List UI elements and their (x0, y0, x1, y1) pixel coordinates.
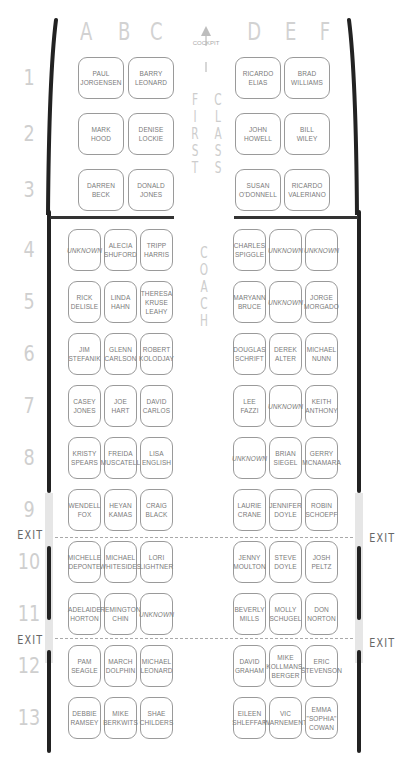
seat-6f[interactable]: MICHAEL NUNN (305, 333, 338, 375)
seat-9e[interactable]: JENNIFER DOYLE (269, 489, 302, 531)
seat-9f[interactable]: ROBIN SCHOEPF (305, 489, 338, 531)
seat-3d[interactable]: SUSAN O'DONNELL (235, 169, 281, 211)
seat-1e[interactable]: BRAD WILLIAMS (284, 57, 330, 99)
column-label-f: F (320, 18, 330, 46)
right-wall-tail (357, 650, 361, 753)
seat-9a[interactable]: WENDELL FOX (68, 489, 101, 531)
seat-12e[interactable]: MIKE KOLLMANS- BERGER (269, 645, 302, 687)
seat-7f[interactable]: KEITH ANTHONY (305, 385, 338, 427)
passenger-name: JOHN HOWELL (244, 125, 272, 143)
seat-2c[interactable]: DENISE LOCKIE (128, 113, 174, 155)
seat-3b[interactable]: DARREN BECK (78, 169, 124, 211)
seat-11a[interactable]: ADELAIDE HORTON (68, 593, 101, 635)
seat-13f[interactable]: EMMA "SOPHIA" COWAN (305, 697, 338, 739)
left-wall-tail (47, 650, 51, 753)
seat-2b[interactable]: MARK HOOD (78, 113, 124, 155)
seat-7b[interactable]: JOE HART (104, 385, 137, 427)
seat-8f[interactable]: GERRY MCNAMARA (305, 437, 338, 479)
passenger-name: LEE FAZZI (240, 397, 258, 415)
row-number-7: 7 (14, 393, 44, 418)
seat-13d[interactable]: EILEEN SHLEFFAR (233, 697, 266, 739)
seat-1d[interactable]: RICARDO ELIAS (235, 57, 281, 99)
seat-9b[interactable]: HEYAN KAMAS (104, 489, 137, 531)
seat-10d[interactable]: JENNY MOULTON (233, 541, 266, 583)
seat-13b[interactable]: MIKE BERKWITS (104, 697, 137, 739)
passenger-name: MIKE BERKWITS (103, 709, 138, 727)
passenger-name: PAUL JORGENSEN (80, 69, 121, 87)
passenger-name: WENDELL FOX (68, 501, 100, 519)
seat-6a[interactable]: JIM STEFANIK (68, 333, 101, 375)
seat-5c[interactable]: THERESA KRUSE LEAHY (140, 281, 173, 323)
seat-7e[interactable]: UNKNOWN (269, 385, 302, 427)
seat-5f[interactable]: JORGE MORGADO (305, 281, 338, 323)
seat-4c[interactable]: TRIPP HARRIS (140, 229, 173, 271)
seat-10c[interactable]: LORI LIGHTNER (140, 541, 173, 583)
passenger-name: JOE HART (112, 397, 130, 415)
seat-6c[interactable]: ROBERT KOLODJAY (140, 333, 173, 375)
passenger-name: LAURIE CRANE (237, 501, 261, 519)
seat-1c[interactable]: BARRY LEONARD (128, 57, 174, 99)
seat-6e[interactable]: DEREK ALTER (269, 333, 302, 375)
seat-13a[interactable]: DEBBIE RAMSEY (68, 697, 101, 739)
seat-11e[interactable]: MOLLY SCHUGEL (269, 593, 302, 635)
seat-6b[interactable]: GLENN CARLSON (104, 333, 137, 375)
seat-12f[interactable]: ERIC STEVENSON (305, 645, 338, 687)
row-number-5: 5 (14, 289, 44, 314)
class-label: CLASS (211, 92, 225, 177)
column-label-a: A (80, 18, 92, 46)
seat-13e[interactable]: VIC WARNEMENT (269, 697, 302, 739)
seat-8e[interactable]: BRIAN SIEGEL (269, 437, 302, 479)
passenger-name: THERESA KRUSE LEAHY (141, 289, 172, 316)
seat-9c[interactable]: CRAIG BLACK (140, 489, 173, 531)
seat-7a[interactable]: CASEY JONES (68, 385, 101, 427)
exit-row-line-2 (55, 638, 353, 639)
seat-6d[interactable]: DOUGLAS SCHRIFT (233, 333, 266, 375)
seat-7d[interactable]: LEE FAZZI (233, 385, 266, 427)
first-class-divider-right (234, 216, 358, 219)
seat-2d[interactable]: JOHN HOWELL (235, 113, 281, 155)
seat-7c[interactable]: DAVID CARLOS (140, 385, 173, 427)
seat-11d[interactable]: BEVERLY MILLS (233, 593, 266, 635)
seat-4d[interactable]: CHARLES SPIGGLE (233, 229, 266, 271)
seat-5b[interactable]: LINDA HAHN (104, 281, 137, 323)
seat-8c[interactable]: LISA ENGLISH (140, 437, 173, 479)
seat-5d[interactable]: MARYANN BRUCE (233, 281, 266, 323)
seat-12a[interactable]: PAM SEAGLE (68, 645, 101, 687)
seat-12c[interactable]: MICHAEL LEONARD (140, 645, 173, 687)
seat-13c[interactable]: SHAE CHILDERS (140, 697, 173, 739)
first-class-divider-left (50, 216, 174, 219)
seat-10e[interactable]: STEVE DOYLE (269, 541, 302, 583)
seat-12d[interactable]: DAVID GRAHAM (233, 645, 266, 687)
row-number-6: 6 (14, 341, 44, 366)
seat-12b[interactable]: MARCH DOLPHIN (104, 645, 137, 687)
seat-5e[interactable]: UNKNOWN (269, 281, 302, 323)
passenger-name: DENISE LOCKIE (139, 125, 164, 143)
seat-8d[interactable]: UNKNOWN (233, 437, 266, 479)
seat-11f[interactable]: DON NORTON (305, 593, 338, 635)
seat-10a[interactable]: MICHELLE DEPONTE (68, 541, 101, 583)
seat-4a[interactable]: UNKNOWN (68, 229, 101, 271)
seat-11c[interactable]: UNKNOWN (140, 593, 173, 635)
column-label-c: C (150, 18, 163, 46)
seat-4e[interactable]: UNKNOWN (269, 229, 302, 271)
cockpit-label: COCKPIT (186, 40, 226, 46)
passenger-name: DEBBIE RAMSEY (70, 709, 98, 727)
row-number-10: 10 (14, 549, 44, 574)
seat-8b[interactable]: FREIDA MUSCATELL (104, 437, 137, 479)
seat-10b[interactable]: MICHAEL WHITESIDES (104, 541, 137, 583)
seat-3c[interactable]: DONALD JONES (128, 169, 174, 211)
seat-9d[interactable]: LAURIE CRANE (233, 489, 266, 531)
row-number-8: 8 (14, 445, 44, 470)
passenger-name: GERRY MCNAMARA (302, 449, 341, 467)
seat-3e[interactable]: RICARDO VALERIANO (284, 169, 330, 211)
seat-4b[interactable]: ALECIA SHUFORD (104, 229, 137, 271)
column-label-d: D (247, 18, 261, 46)
seat-5a[interactable]: RICK DELISLE (68, 281, 101, 323)
seat-8a[interactable]: KRISTY SPEARS (68, 437, 101, 479)
seat-4f[interactable]: UNKNOWN (305, 229, 338, 271)
passenger-name: DAVID CARLOS (143, 397, 170, 415)
seat-1b[interactable]: PAUL JORGENSEN (78, 57, 124, 99)
seat-2e[interactable]: BILL WILEY (284, 113, 330, 155)
seat-11b[interactable]: REMINGTON CHIN (104, 593, 137, 635)
seat-10f[interactable]: JOSH PELTZ (305, 541, 338, 583)
